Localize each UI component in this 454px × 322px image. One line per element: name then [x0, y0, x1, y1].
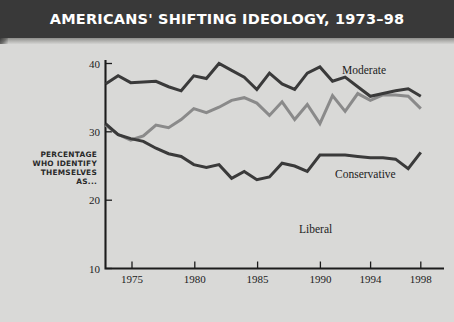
series-line-conservative: [106, 94, 421, 140]
x-ticks: 1975 1980 1985 1990 1994 1998: [121, 262, 432, 286]
y-ticklabel-40: 40: [89, 58, 101, 70]
x-ticklabel-1980: 1980: [184, 273, 207, 285]
plot-area: PERCENTAGE WHO IDENTIFY THEMSELVES AS...…: [0, 44, 454, 290]
y-caption-line-3: THEMSELVES: [41, 168, 97, 177]
y-caption-line-1: PERCENTAGE: [40, 150, 97, 159]
series-label-liberal: Liberal: [299, 223, 332, 235]
y-ticklabel-30: 30: [89, 126, 101, 138]
source-bar: SOURCE: Harold W. Stanley and Richard G.…: [0, 290, 454, 322]
y-ticklabel-10: 10: [89, 263, 101, 275]
x-ticklabel-1998: 1998: [410, 273, 433, 285]
y-axis-caption: PERCENTAGE WHO IDENTIFY THEMSELVES AS...: [32, 150, 97, 186]
x-ticklabel-1994: 1994: [360, 273, 383, 285]
series-label-conservative: Conservative: [335, 168, 396, 180]
y-ticklabel-20: 20: [89, 194, 101, 206]
series-label-moderate: Moderate: [342, 64, 386, 76]
page-title: AMERICANS' SHIFTING IDEOLOGY, 1973–98: [0, 0, 454, 38]
x-ticklabel-1990: 1990: [309, 273, 332, 285]
line-chart: PERCENTAGE WHO IDENTIFY THEMSELVES AS...…: [0, 44, 454, 290]
y-caption-line-2: WHO IDENTIFY: [32, 159, 97, 168]
y-caption-line-4: AS...: [76, 177, 97, 186]
chart-body: PERCENTAGE WHO IDENTIFY THEMSELVES AS...…: [0, 44, 454, 290]
x-ticklabel-1985: 1985: [247, 273, 270, 285]
x-ticklabel-1975: 1975: [121, 273, 144, 285]
